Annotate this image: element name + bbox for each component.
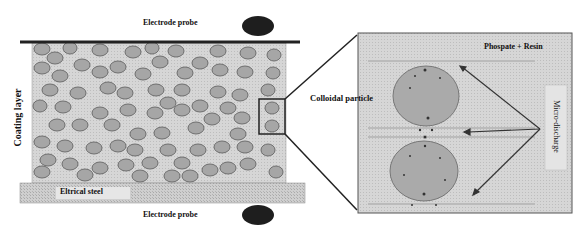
coating-layer-label: Coating layer: [12, 83, 23, 153]
micro-discharge-label: Micro-discharge: [552, 91, 561, 163]
lower-colloidal-particle: [390, 141, 458, 201]
bottom-probe-icon: [242, 205, 274, 225]
diagram-canvas: [0, 0, 582, 231]
electrode-probe-bottom-label: Electrode probe: [143, 210, 198, 219]
phosphate-resin-label: Phospate + Resin: [484, 42, 543, 51]
electrode-probe-top-label: Electrode probe: [143, 18, 198, 27]
upper-colloidal-particle: [393, 66, 459, 126]
top-probe-icon: [242, 16, 274, 36]
inset-magnified-view: [358, 33, 572, 213]
colloidal-particle-label: Colloidal particle: [310, 93, 373, 103]
electrical-steel-label: Eltrical steel: [60, 187, 103, 196]
